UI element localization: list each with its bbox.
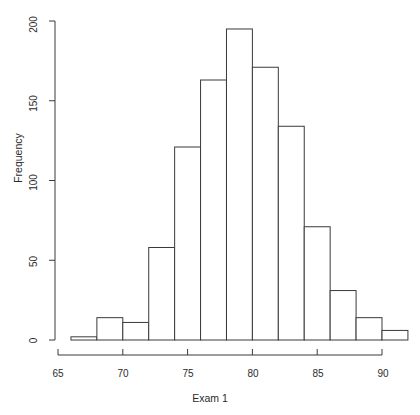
bar-88-90 xyxy=(356,318,382,340)
bar-90-92 xyxy=(382,330,408,340)
bar-86-88 xyxy=(330,291,356,340)
bar-84-86 xyxy=(304,227,330,340)
bar-74-76 xyxy=(175,147,201,340)
bar-78-80 xyxy=(226,29,252,340)
bar-68-70 xyxy=(97,318,123,340)
bar-72-74 xyxy=(149,247,175,340)
x-axis xyxy=(58,349,382,355)
plot-canvas xyxy=(0,0,420,415)
bar-70-72 xyxy=(123,322,149,340)
bar-82-84 xyxy=(278,126,304,340)
bar-76-78 xyxy=(201,80,227,340)
histogram-bars xyxy=(71,29,408,340)
histogram-plot: Frequency Exam 1 0 50 100 150 200 65 70 … xyxy=(0,0,420,415)
bar-66-68 xyxy=(71,337,97,340)
bar-80-82 xyxy=(252,67,278,340)
y-axis xyxy=(49,21,55,340)
